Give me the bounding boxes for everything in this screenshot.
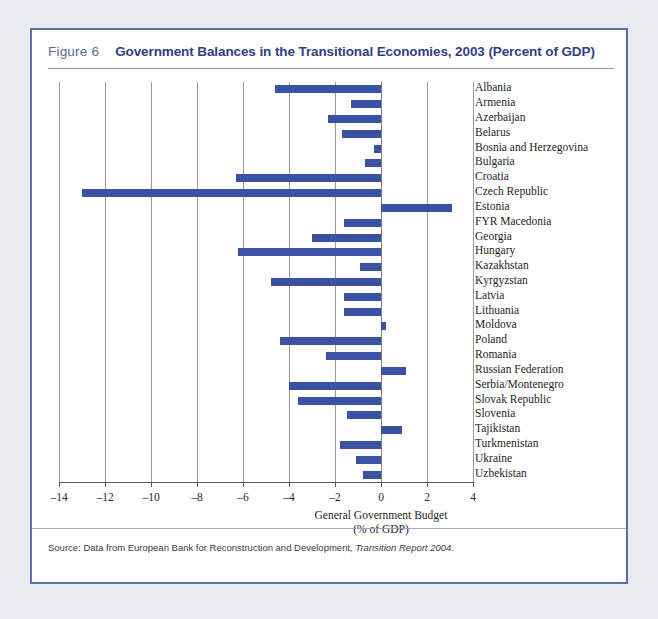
source-publication: Transition Report 2004	[355, 542, 451, 553]
bar-slovak-republic	[298, 397, 381, 405]
page-title: Government Balances in the Transitional …	[115, 44, 595, 59]
category-label-serbia-montenegro: Serbia/Montenegro	[475, 378, 564, 390]
gridline--14	[59, 82, 60, 482]
bar-armenia	[351, 100, 381, 108]
category-label-fyr-macedonia: FYR Macedonia	[475, 215, 551, 227]
category-label-bulgaria: Bulgaria	[475, 155, 515, 167]
category-label-moldova: Moldova	[475, 318, 517, 330]
bar-hungary	[238, 248, 381, 256]
category-label-czech-republic: Czech Republic	[475, 185, 548, 197]
x-tick--4	[289, 482, 290, 487]
bar-czech-republic	[82, 189, 381, 197]
x-tick-label--6: –6	[223, 491, 263, 503]
figure-panel: Figure 6Government Balances in the Trans…	[30, 28, 628, 584]
category-label-uzbekistan: Uzbekistan	[475, 467, 527, 479]
category-label-croatia: Croatia	[475, 170, 509, 182]
bar-azerbaijan	[328, 115, 381, 123]
bar-latvia	[344, 293, 381, 301]
bar-poland	[280, 337, 381, 345]
bar-fyr-macedonia	[344, 219, 381, 227]
category-label-lithuania: Lithuania	[475, 304, 519, 316]
category-label-armenia: Armenia	[475, 96, 515, 108]
category-label-latvia: Latvia	[475, 289, 504, 301]
category-label-ukraine: Ukraine	[475, 452, 512, 464]
bar-croatia	[236, 174, 381, 182]
category-label-romania: Romania	[475, 348, 517, 360]
x-tick-label--14: –14	[39, 491, 79, 503]
bar-lithuania	[344, 308, 381, 316]
source-text: Source: Data from European Bank for Reco…	[48, 542, 353, 553]
bar-estonia	[381, 204, 452, 212]
category-label-slovak-republic: Slovak Republic	[475, 393, 551, 405]
bar-kyrgyzstan	[271, 278, 381, 286]
x-tick-label--4: –4	[269, 491, 309, 503]
bar-slovenia	[347, 411, 382, 419]
gridline--8	[197, 82, 198, 482]
x-tick--10	[151, 482, 152, 487]
bar-serbia-montenegro	[289, 382, 381, 390]
x-tick--12	[105, 482, 106, 487]
bar-belarus	[342, 130, 381, 138]
x-tick-4	[473, 482, 474, 487]
category-label-belarus: Belarus	[475, 126, 510, 138]
category-label-azerbaijan: Azerbaijan	[475, 111, 525, 123]
bar-georgia	[312, 234, 381, 242]
bar-kazakhstan	[360, 263, 381, 271]
x-axis-line	[59, 482, 473, 483]
x-tick-label--12: –12	[85, 491, 125, 503]
category-label-georgia: Georgia	[475, 230, 512, 242]
x-axis-label-line1: General Government Budget	[221, 508, 541, 522]
x-tick-label--8: –8	[177, 491, 217, 503]
bar-russian-federation	[381, 367, 406, 375]
x-axis-label-line2: (% of GDP)	[221, 522, 541, 536]
category-label-kyrgyzstan: Kyrgyzstan	[475, 274, 528, 286]
x-tick-0	[381, 482, 382, 487]
x-tick--2	[335, 482, 336, 487]
x-tick-label--10: –10	[131, 491, 171, 503]
bar-uzbekistan	[363, 471, 381, 479]
bar-albania	[275, 85, 381, 93]
x-tick--8	[197, 482, 198, 487]
bar-romania	[326, 352, 381, 360]
category-label-turkmenistan: Turkmenistan	[475, 437, 538, 449]
page-background: Figure 6Government Balances in the Trans…	[0, 0, 658, 619]
category-label-kazakhstan: Kazakhstan	[475, 259, 529, 271]
category-label-slovenia: Slovenia	[475, 407, 515, 419]
bar-turkmenistan	[340, 441, 381, 449]
x-tick-label-4: 4	[453, 491, 493, 503]
category-label-poland: Poland	[475, 333, 507, 345]
category-label-russian-federation: Russian Federation	[475, 363, 563, 375]
gridline-2	[427, 82, 428, 482]
gridline--10	[151, 82, 152, 482]
x-tick-label--2: –2	[315, 491, 355, 503]
source-divider	[32, 528, 626, 529]
gridline-0	[381, 82, 382, 482]
x-tick-label-0: 0	[361, 491, 401, 503]
category-label-estonia: Estonia	[475, 200, 510, 212]
bar-ukraine	[356, 456, 381, 464]
source-period: .	[451, 542, 454, 553]
category-label-bosnia-and-herzegovina: Bosnia and Herzegovina	[475, 141, 588, 153]
bar-tajikistan	[381, 426, 402, 434]
title-divider	[48, 68, 614, 69]
gridline--12	[105, 82, 106, 482]
category-label-hungary: Hungary	[475, 244, 515, 256]
x-tick-label-2: 2	[407, 491, 447, 503]
gridline-4	[473, 82, 474, 482]
gridline--6	[243, 82, 244, 482]
figure-number: Figure 6	[48, 44, 99, 59]
bar-moldova	[381, 322, 386, 330]
figure-title-row: Figure 6Government Balances in the Trans…	[48, 42, 614, 70]
x-tick-2	[427, 482, 428, 487]
category-label-tajikistan: Tajikistan	[475, 422, 520, 434]
bar-bulgaria	[365, 159, 381, 167]
x-tick--6	[243, 482, 244, 487]
source-note: Source: Data from European Bank for Reco…	[48, 542, 454, 553]
x-axis-label: General Government Budget(% of GDP)	[221, 508, 541, 536]
chart-plot-area	[59, 82, 473, 482]
bar-bosnia-and-herzegovina	[374, 145, 381, 153]
x-tick--14	[59, 482, 60, 487]
category-label-albania: Albania	[475, 81, 511, 93]
